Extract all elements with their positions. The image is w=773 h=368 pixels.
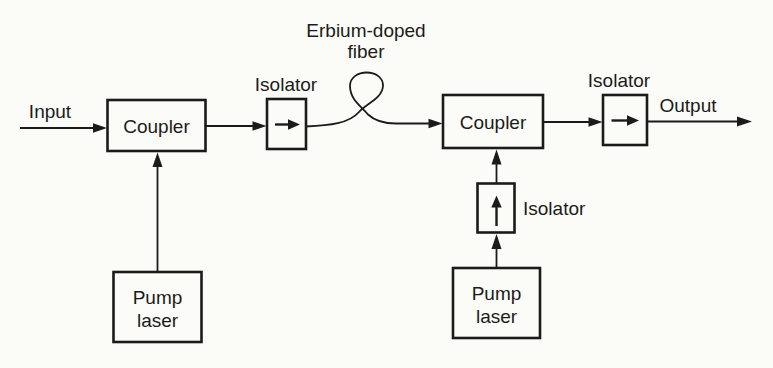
- output-label: Output: [659, 95, 717, 116]
- isolator-3-label: Isolator: [523, 198, 586, 219]
- erbium-fiber-label-line2: fiber: [348, 41, 386, 62]
- edfa-block-diagram: Input Coupler Isolator Erbium-doped fibe…: [0, 0, 773, 368]
- isolator-2-label: Isolator: [588, 70, 651, 91]
- output-arrowhead-icon: [737, 117, 752, 127]
- pump-laser-1-label-line2: laser: [137, 310, 179, 331]
- isolator-1-forward-arrowhead-icon: [288, 119, 300, 129]
- coupler2-to-isolator2-arrowhead-icon: [589, 117, 603, 127]
- coupler-1-label: Coupler: [123, 116, 190, 137]
- pump-laser-2-label-line2: laser: [476, 306, 518, 327]
- figure-canvas: Input Coupler Isolator Erbium-doped fibe…: [0, 0, 773, 368]
- pump2-to-isolator3-arrowhead-icon: [492, 234, 502, 249]
- isolator-3-up-arrowhead-icon: [491, 196, 501, 208]
- erbium-fiber-label-line1: Erbium-doped: [306, 20, 425, 41]
- input-label: Input: [29, 101, 72, 122]
- coupler-2-label: Coupler: [460, 112, 527, 133]
- isolator-2-forward-arrowhead-icon: [627, 115, 639, 125]
- pump-laser-1-label-line1: Pump: [133, 287, 183, 308]
- input-arrowhead-icon: [93, 123, 107, 133]
- pump1-to-coupler1-arrowhead-icon: [153, 153, 163, 168]
- isolator-1-label: Isolator: [255, 74, 318, 95]
- fiber-to-coupler2-arrowhead-icon: [429, 119, 443, 129]
- pump-laser-2-label-line1: Pump: [472, 283, 522, 304]
- coupler1-to-isolator1-arrowhead-icon: [253, 121, 267, 131]
- erbium-fiber-coil: [306, 73, 429, 127]
- isolator3-to-coupler2-arrowhead-icon: [492, 150, 502, 165]
